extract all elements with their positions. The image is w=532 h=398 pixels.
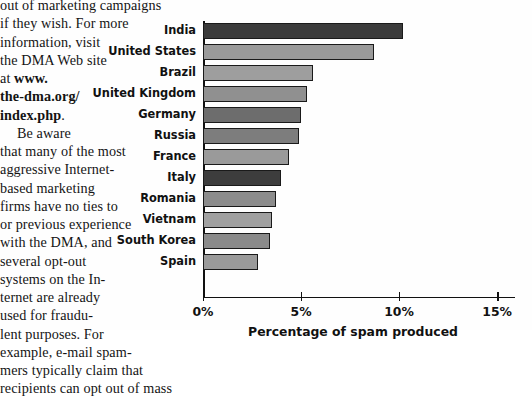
bar [203,212,272,228]
value-axis-line [203,297,515,299]
bar-row: Italy [203,168,503,189]
axis-tick-label: 5% [291,304,312,319]
bar [203,107,301,123]
bar-row: France [203,147,503,168]
bar-row: Brazil [203,63,503,84]
x-axis-title: Percentage of spam produced [203,324,503,339]
bar [203,254,258,270]
axis-tick-label: 0% [192,304,213,319]
axis-tick [399,292,400,301]
bar-row: Germany [203,105,503,126]
bar-row: Vietnam [203,210,503,231]
axis-tick [497,292,498,301]
bar-row: India [203,21,503,42]
dma-url-part-3: index.php [0,107,61,123]
bar-category-label: Brazil [160,64,196,80]
article-line: mers typically claim that [0,361,196,379]
bar-category-label: South Korea [117,232,196,248]
dma-url-part-2: the-dma.org/ [0,88,80,104]
bar-category-label: Vietnam [143,211,196,227]
bar [203,170,281,186]
bar-category-label: Germany [138,106,196,122]
bar-category-label: India [164,22,196,38]
bar-category-label: Italy [167,169,196,185]
bar-row: United States [203,42,503,63]
bar-row: Spain [203,252,503,273]
bar [203,128,299,144]
bar-category-label: Russia [154,127,196,143]
bar [203,191,276,207]
bar [203,86,307,102]
bar [203,44,374,60]
bar-category-label: United States [108,43,196,59]
bar [203,149,289,165]
chart-plot-area: IndiaUnited StatesBrazilUnited KingdomGe… [203,21,503,298]
article-line: example, e-mail spam- [0,343,196,361]
spam-by-country-bar-chart: IndiaUnited StatesBrazilUnited KingdomGe… [120,8,532,330]
article-line-prefix: at [0,70,14,86]
bar-row: Russia [203,126,503,147]
bar-category-label: Spain [160,253,196,269]
bar [203,233,270,249]
article-line: recipients can opt out of mass [0,379,196,397]
bar-row: United Kingdom [203,84,503,105]
bar-category-label: Romania [140,190,196,206]
axis-tick-label: 15% [482,304,512,319]
axis-tick [203,292,204,301]
bar [203,65,313,81]
axis-tick [301,292,302,301]
axis-tick-label: 10% [384,304,414,319]
bar-category-label: United Kingdom [93,85,196,101]
bar-row: Romania [203,189,503,210]
article-url-period: . [61,107,65,123]
dma-url-part-1: www. [14,70,48,86]
bar-row: South Korea [203,231,503,252]
bar-category-label: France [153,148,196,164]
bar [203,23,403,39]
